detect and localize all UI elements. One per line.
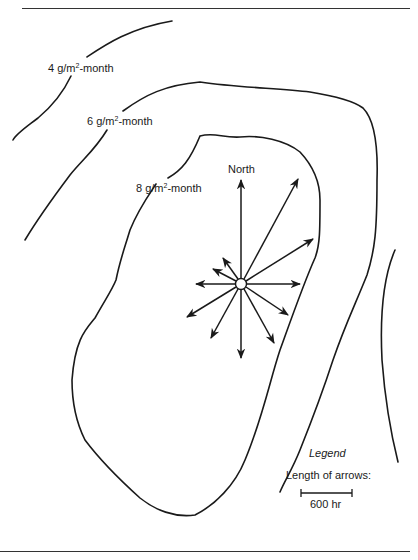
arrow-se <box>246 287 288 315</box>
arrow-sw <box>187 287 236 317</box>
legend-scale-bar <box>301 489 352 497</box>
wind-rose-arrows <box>187 179 313 358</box>
legend-caption: Length of arrows: <box>286 469 371 481</box>
arrow-ssw <box>211 289 238 338</box>
station-marker <box>236 279 247 290</box>
legend-scale-label: 600 hr <box>310 498 341 510</box>
arrow-nne <box>244 179 298 279</box>
contour-4-label: 4 g/m2-month <box>48 62 114 74</box>
arrow-sse <box>244 289 274 343</box>
north-label: North <box>228 163 255 175</box>
arrow-ene <box>246 239 313 281</box>
figure-page: 4 g/m2-month 6 g/m2-month 8 g/m2-month N… <box>0 0 418 560</box>
contour-6-label: 6 g/m2-month <box>87 115 153 127</box>
contour-8-label: 8 g/m2-month <box>136 182 202 194</box>
legend-title: Legend <box>309 447 346 459</box>
